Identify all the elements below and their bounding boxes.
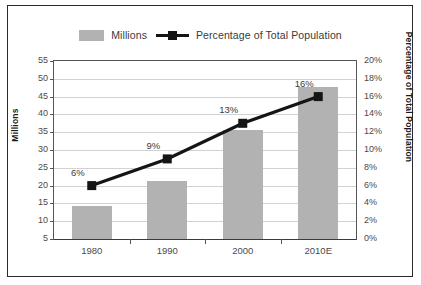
y-axis-left-tick-label: 5 [8,234,48,243]
x-axis-label: 2010E [283,245,353,256]
chart-legend: Millions Percentage of Total Population [0,25,421,45]
legend-label-millions: Millions [111,29,147,41]
y-axis-right-tick-label: 12% [364,127,404,136]
y-axis-right-tick-label: 10% [364,145,404,154]
y-axis-left-tick-label: 30 [8,145,48,154]
x-axis-tick-mark [130,239,131,244]
y-axis-right-tick-label: 16% [364,92,404,101]
line-path [92,97,319,186]
y-axis-right-tick-label: 2% [364,216,404,225]
line-data-label: 13% [209,104,249,115]
y-axis-left-tick-label: 20 [8,181,48,190]
y-axis-left-tick-label: 15 [8,198,48,207]
y-axis-right-tick-label: 18% [364,74,404,83]
legend-item-percentage: Percentage of Total Population [156,29,342,41]
legend-label-percentage: Percentage of Total Population [196,29,342,41]
line-square-swatch-icon [156,30,189,41]
y-axis-right-title: Percentage of Total Population [404,17,414,177]
y-axis-left-tick-label: 40 [8,109,48,118]
line-data-label: 9% [133,140,173,151]
line-marker [163,154,172,163]
line-marker [238,119,247,128]
y-axis-right-tick-label: 4% [364,198,404,207]
line-marker [87,181,96,190]
y-axis-right-tick-label: 20% [364,56,404,65]
y-axis-left-tick-label: 50 [8,74,48,83]
line-marker [314,92,323,101]
y-axis-right-tick-label: 8% [364,163,404,172]
y-axis-left-title: Millions [10,75,20,175]
y-axis-left-tick-label: 35 [8,127,48,136]
chart-figure: Millions Percentage of Total Population … [0,0,421,285]
line-data-label: 16% [284,78,324,89]
y-axis-left-tick-label: 10 [8,216,48,225]
y-axis-left-tick-label: 55 [8,56,48,65]
x-axis-label: 2000 [208,245,278,256]
y-axis-left-tick-label: 45 [8,92,48,101]
y-axis-left-tick-mark [50,239,54,240]
y-axis-right-tick-label: 14% [364,109,404,118]
legend-item-millions: Millions [79,29,147,41]
x-axis-label: 1990 [132,245,202,256]
y-axis-right-tick-label: 0% [364,234,404,243]
y-axis-right-tick-label: 6% [364,181,404,190]
plot-area: 510152025303540455055 0%2%4%6%8%10%12%14… [53,60,357,240]
x-axis-tick-mark [281,239,282,244]
line-data-label: 6% [58,167,98,178]
y-axis-left-tick-label: 25 [8,163,48,172]
x-axis-label: 1980 [57,245,127,256]
bar-swatch-icon [79,30,104,41]
x-axis-tick-mark [205,239,206,244]
